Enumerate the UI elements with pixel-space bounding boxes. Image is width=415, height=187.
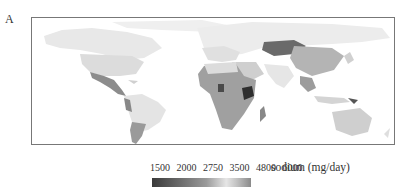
colorbar-gradient [152,178,251,187]
world-map [31,17,395,145]
colorbar-tick: 3500 [230,162,250,173]
region-north-africa [204,62,238,74]
region-south-asia [264,64,294,88]
region-se-asia [300,76,316,92]
colorbar-tick: 2000 [177,162,197,173]
region-australia [332,108,372,136]
region-usa [80,54,144,76]
colorbar-title: sodium (mg/day) [271,161,350,173]
region-china [290,46,344,76]
region-southern-cone [130,122,146,144]
region-indonesia [314,96,350,104]
map-svg [32,18,395,145]
colorbar-tick: 1500 [150,162,170,173]
region-cameroon [218,84,224,92]
panel-label: A [5,12,14,27]
colorbar-tick: 2750 [203,162,223,173]
